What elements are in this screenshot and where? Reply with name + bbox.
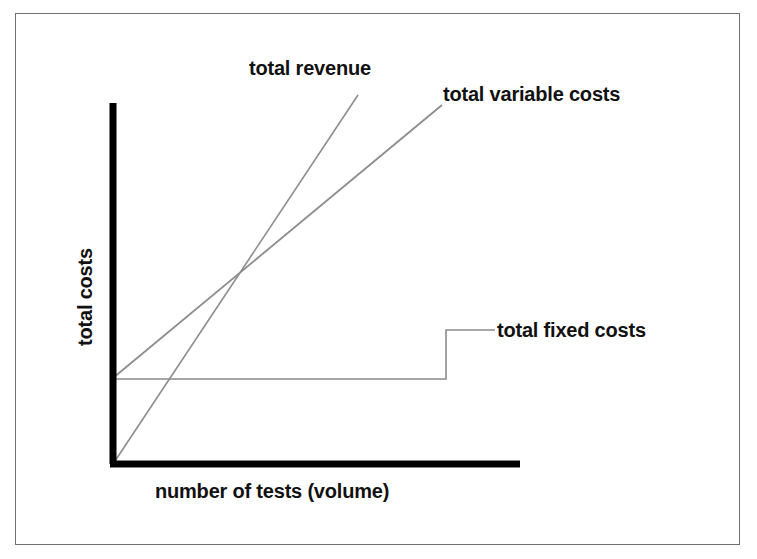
x-axis-label: number of tests (volume) — [155, 481, 389, 501]
series-label-total-fixed-costs: total fixed costs — [497, 320, 646, 340]
plot-area — [0, 0, 757, 559]
series-label-total-variable-costs: total variable costs — [443, 84, 620, 104]
series-total-fixed-costs — [113, 330, 495, 379]
chart-figure: total revenue total variable costs total… — [0, 0, 757, 559]
series-total-revenue — [113, 95, 358, 464]
y-axis-label: total costs — [75, 207, 95, 387]
series-label-total-revenue: total revenue — [249, 58, 371, 78]
series-total-variable-costs — [113, 105, 442, 378]
